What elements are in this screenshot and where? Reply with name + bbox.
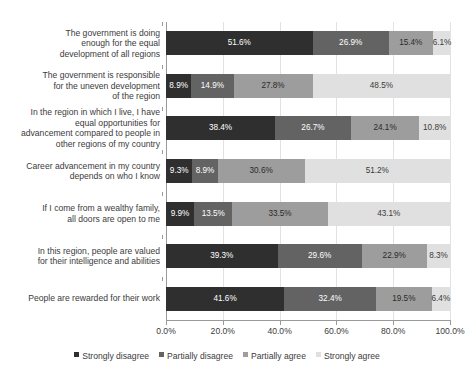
legend-item[interactable]: Strongly agree <box>316 350 380 361</box>
bar-segment: 51.6% <box>166 31 313 55</box>
legend-item[interactable]: Partially agree <box>243 350 306 361</box>
category-label-line: for the uneven development <box>0 81 160 92</box>
category-label-line: People are rewarded for their work <box>0 293 160 304</box>
bar-segment: 29.6% <box>278 244 362 268</box>
category-label: In the region in which I live, I haveequ… <box>0 107 160 149</box>
bar-row: 51.6%26.9%15.4%6.1% <box>166 31 450 55</box>
legend-item[interactable]: Strongly disagree <box>74 350 149 361</box>
category-label-line: Career advancement in my country <box>0 161 160 172</box>
bar-segment-value: 33.5% <box>268 209 291 218</box>
bar-row: 8.9%14.9%27.8%48.5% <box>166 74 450 98</box>
bar-segment-value: 51.2% <box>366 166 389 175</box>
x-axis-tick <box>450 321 451 325</box>
bar-segment: 48.5% <box>313 74 451 98</box>
y-axis-tick <box>162 65 163 69</box>
legend-swatch-icon <box>243 352 248 357</box>
bar-segment-value: 8.3% <box>429 251 448 260</box>
legend-swatch-icon <box>159 352 164 357</box>
bar-row: 41.6%32.4%19.5%6.4% <box>166 287 450 311</box>
bar-segment-value: 27.8% <box>261 81 284 90</box>
category-label: The government is doingenough for the eq… <box>0 28 160 60</box>
legend-label: Partially agree <box>251 351 306 361</box>
bar-segment-value: 9.9% <box>171 209 190 218</box>
legend-item[interactable]: Partially disagree <box>159 350 233 361</box>
bar-segment-value: 22.9% <box>383 251 406 260</box>
bar-row: 9.3%8.9%30.6%51.2% <box>166 159 450 183</box>
bar-segment: 26.9% <box>313 31 389 55</box>
y-axis-tick <box>162 22 163 26</box>
category-label-line: enough for the equal <box>0 38 160 49</box>
legend-swatch-icon <box>74 352 79 357</box>
bar-segment-value: 48.5% <box>370 81 393 90</box>
bar-segment: 10.8% <box>419 116 450 140</box>
category-label-line: The government is doing <box>0 28 160 39</box>
bar-row: 38.4%26.7%24.1%10.8% <box>166 116 450 140</box>
bar-segment: 33.5% <box>232 202 327 226</box>
legend-label: Strongly agree <box>324 351 380 361</box>
bar-segment: 38.4% <box>166 116 275 140</box>
bar-segment: 13.5% <box>194 202 232 226</box>
x-axis-tick-label: 80.0% <box>365 326 421 336</box>
y-axis-tick <box>162 107 163 111</box>
category-label-line: for their intelligence and abilities <box>0 256 160 267</box>
x-axis-tick <box>166 321 167 325</box>
bar-segment: 19.5% <box>376 287 431 311</box>
bar-segment-value: 10.8% <box>423 123 446 132</box>
category-label-line: development of all regions <box>0 49 160 60</box>
x-axis-tick <box>336 321 337 325</box>
bar-segment: 14.9% <box>191 74 233 98</box>
category-label-line: The government is responsible <box>0 70 160 81</box>
bar-row: 9.9%13.5%33.5%43.1% <box>166 202 450 226</box>
chart-legend: Strongly disagreePartially disagreeParti… <box>0 350 454 361</box>
bar-segment-value: 15.4% <box>399 38 422 47</box>
bar-segment-value: 24.1% <box>373 123 396 132</box>
bar-segment-value: 41.6% <box>213 294 236 303</box>
bar-segment: 24.1% <box>351 116 419 140</box>
bar-segment: 26.7% <box>275 116 351 140</box>
bar-segment-value: 13.5% <box>202 209 225 218</box>
y-axis-tick <box>162 277 163 281</box>
bar-segment-value: 19.5% <box>392 294 415 303</box>
bar-segment-value: 14.9% <box>201 81 224 90</box>
legend-swatch-icon <box>316 352 321 357</box>
category-label-line: depends on who I know <box>0 171 160 182</box>
bar-segment: 9.9% <box>166 202 194 226</box>
bar-segment: 6.4% <box>432 287 450 311</box>
bar-segment: 32.4% <box>284 287 376 311</box>
category-label: If I come from a wealthy family,all door… <box>0 203 160 224</box>
bar-segment-value: 39.3% <box>210 251 233 260</box>
bar-segment-value: 32.4% <box>319 294 342 303</box>
bar-segment: 27.8% <box>234 74 313 98</box>
bar-segment-value: 29.6% <box>308 251 331 260</box>
bar-segment: 8.9% <box>192 159 217 183</box>
bar-segment: 9.3% <box>166 159 192 183</box>
bar-segment: 15.4% <box>389 31 433 55</box>
x-axis-tick-label: 100.0% <box>422 326 469 336</box>
legend-label: Partially disagree <box>167 351 233 361</box>
y-axis-tick <box>162 192 163 196</box>
bar-segment: 41.6% <box>166 287 284 311</box>
bar-segment-value: 26.7% <box>301 123 324 132</box>
bar-segment-value: 26.9% <box>339 38 362 47</box>
category-label: The government is responsiblefor the une… <box>0 70 160 102</box>
category-label: People are rewarded for their work <box>0 293 160 304</box>
legend-label: Strongly disagree <box>82 351 149 361</box>
category-label-line: equal opportunities for <box>0 118 160 129</box>
y-axis-tick <box>162 235 163 239</box>
bar-row: 39.3%29.6%22.9%8.3% <box>166 244 450 268</box>
bar-segment: 8.9% <box>166 74 191 98</box>
category-label-line: In the region in which I live, I have <box>0 107 160 118</box>
bar-segment-value: 8.9% <box>196 166 215 175</box>
category-label-line: of the region <box>0 91 160 102</box>
bar-segment: 8.3% <box>427 244 451 268</box>
x-axis-tick-label: 60.0% <box>308 326 364 336</box>
bar-segment-value: 43.1% <box>377 209 400 218</box>
bar-segment-value: 30.6% <box>250 166 273 175</box>
category-label-line: all doors are open to me <box>0 214 160 225</box>
bar-segment-value: 38.4% <box>209 123 232 132</box>
bar-segment: 39.3% <box>166 244 278 268</box>
bar-segment-value: 9.3% <box>170 166 189 175</box>
bar-segment: 43.1% <box>328 202 450 226</box>
x-axis-tick-label: 40.0% <box>252 326 308 336</box>
